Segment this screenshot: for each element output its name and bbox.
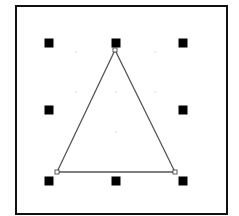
resize-handle-bottom-center[interactable]: [112, 177, 121, 186]
vertex-marker[interactable]: [173, 170, 177, 174]
vertex-marker[interactable]: [55, 170, 59, 174]
grid-dot: [155, 92, 156, 93]
resize-handle-middle-right[interactable]: [179, 106, 188, 115]
vertex-marker[interactable]: [113, 48, 117, 52]
resize-handle-bottom-left[interactable]: [45, 177, 54, 186]
resize-handle-top-left[interactable]: [45, 39, 54, 48]
triangle-shape[interactable]: [57, 50, 175, 172]
grid-dot: [116, 132, 117, 133]
resize-handle-bottom-right[interactable]: [179, 177, 188, 186]
drawing-canvas[interactable]: [0, 0, 239, 216]
grid-dot: [155, 52, 156, 53]
resize-handle-middle-left[interactable]: [45, 106, 54, 115]
grid-dot: [76, 52, 77, 53]
resize-handle-top-right[interactable]: [179, 39, 188, 48]
resize-handle-top-center[interactable]: [112, 39, 121, 48]
grid-dot: [76, 92, 77, 93]
grid-dot: [116, 92, 117, 93]
